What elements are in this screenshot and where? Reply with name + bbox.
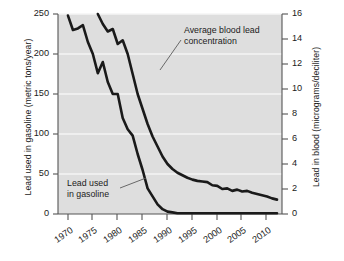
lead-in-gasoline-and-blood-chart: Lead used in gasoline (metric tons/year)…: [0, 0, 344, 261]
y-left-tick-50: 50: [12, 168, 49, 178]
blood-lead-annotation: Average blood lead concentration: [184, 25, 260, 46]
right-axis: [282, 14, 288, 214]
y-left-tick-100: 100: [12, 128, 49, 138]
y-right-tick-8: 8: [292, 108, 297, 118]
y-left-tick-200: 200: [12, 48, 49, 58]
blood-lead-annotation-line1: Average blood lead: [184, 25, 260, 36]
y-right-tick-12: 12: [292, 58, 302, 68]
left-axis: [53, 14, 58, 214]
y-right-tick-16: 16: [292, 8, 302, 18]
y-axis-left-title: Lead used in gasoline (metric tons/year): [23, 17, 33, 217]
gasoline-lead-annotation-line2: in gasoline: [67, 189, 109, 200]
y-right-tick-14: 14: [292, 33, 302, 43]
y-right-tick-0: 0: [292, 208, 297, 218]
y-right-tick-10: 10: [292, 83, 302, 93]
gasoline-lead-annotation-line1: Lead used: [67, 178, 109, 189]
gasoline-lead-annotation: Lead used in gasoline: [67, 178, 109, 199]
y-left-tick-250: 250: [12, 8, 49, 18]
y-right-tick-6: 6: [292, 133, 297, 143]
blood-lead-annotation-line2: concentration: [184, 36, 260, 47]
bottom-axis: [58, 214, 282, 220]
y-left-tick-0: 0: [12, 208, 49, 218]
y-right-tick-4: 4: [292, 158, 297, 168]
y-left-tick-150: 150: [12, 88, 49, 98]
y-axis-right-title: Lead in blood (micrograms/deciliter): [311, 17, 321, 217]
y-right-tick-2: 2: [292, 183, 297, 193]
